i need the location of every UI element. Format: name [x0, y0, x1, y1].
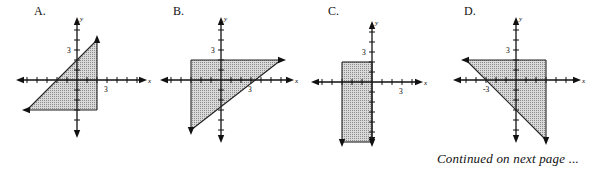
x-axis-arrow-icon [286, 77, 294, 83]
boundary-arrow-icon [188, 127, 194, 135]
x-axis-label: x [423, 79, 428, 87]
x-axis-arrow-icon [16, 77, 24, 83]
boundary-arrow-icon [22, 107, 30, 113]
y-axis-arrow-icon [218, 135, 224, 143]
y-axis-label: y [223, 15, 228, 23]
graph-d: xy-33 [453, 15, 586, 145]
continued-note: Continued on next page ... [437, 151, 579, 167]
x-axis-label: x [147, 77, 152, 85]
boundary-arrow-icon [369, 139, 375, 147]
y-axis-label: y [374, 19, 379, 27]
shaded-region [342, 62, 372, 142]
x-axis-label: x [294, 77, 299, 85]
boundary-arrow-icon [94, 35, 100, 43]
y-axis-arrow-icon [513, 135, 519, 143]
boundary-arrow-icon [461, 57, 469, 63]
x-axis-arrow-icon [415, 79, 423, 85]
y-tick-value-label: 3 [506, 46, 510, 55]
x-axis-arrow-icon [573, 77, 581, 83]
graph-a: xy33 [16, 15, 152, 138]
x-tick-value-label: 3 [104, 85, 108, 94]
graphs-canvas: xy33xy33xy33xy-33 [0, 0, 595, 172]
x-axis-arrow-icon [311, 79, 319, 85]
graph-b: xy33 [160, 15, 299, 143]
x-tick-value-label: 3 [248, 85, 252, 94]
x-axis-arrow-icon [160, 77, 168, 83]
x-tick-value-label: 3 [399, 87, 403, 96]
boundary-arrow-icon [278, 57, 286, 63]
boundary-arrow-icon [543, 137, 549, 145]
y-tick-value-label: 3 [67, 46, 71, 55]
y-tick-value-label: 3 [362, 48, 366, 57]
boundary-arrow-icon [339, 139, 345, 147]
y-axis-label: y [79, 15, 84, 23]
y-axis-arrow-icon [74, 130, 80, 138]
x-axis-arrow-icon [453, 77, 461, 83]
x-tick-value-label: -3 [483, 85, 489, 94]
x-axis-arrow-icon [139, 77, 147, 83]
x-axis-label: x [581, 77, 586, 85]
graph-c: xy33 [311, 19, 428, 147]
y-tick-value-label: 3 [211, 46, 215, 55]
y-axis-label: y [518, 15, 523, 23]
